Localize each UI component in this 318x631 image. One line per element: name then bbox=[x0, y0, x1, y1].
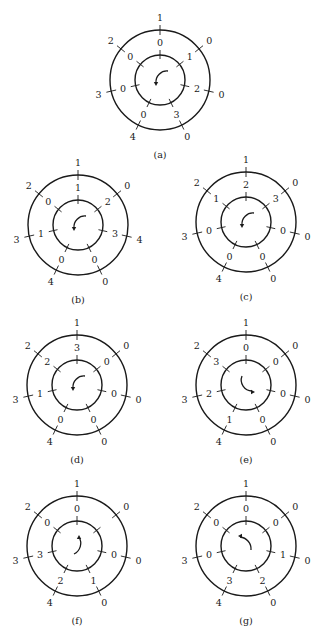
outer-value-label: 2 bbox=[25, 501, 31, 512]
inner-ring bbox=[135, 55, 185, 105]
inner-value-label: 1 bbox=[280, 549, 286, 560]
inner-value-label: 0 bbox=[45, 196, 51, 207]
outer-value-label: 4 bbox=[47, 436, 53, 447]
rotation-arrow-icon bbox=[242, 213, 254, 225]
outer-value-label: 2 bbox=[194, 177, 200, 188]
outer-value-label: 0 bbox=[206, 35, 212, 46]
panel-g: 10000102433020(g) bbox=[182, 478, 311, 627]
inner-ring bbox=[221, 360, 271, 410]
panel-b: 11024300403120(b) bbox=[14, 157, 143, 306]
rotation-arrow-icon bbox=[74, 537, 81, 554]
inner-value-label: 0 bbox=[243, 342, 249, 353]
outer-value-label: 0 bbox=[101, 436, 107, 447]
panel-caption: (d) bbox=[70, 454, 84, 465]
inner-value-label: 0 bbox=[57, 414, 63, 425]
inner-value-label: 2 bbox=[243, 179, 249, 190]
outer-value-label: 0 bbox=[292, 340, 298, 351]
outer-value-label: 4 bbox=[216, 273, 222, 284]
inner-value-label: 1 bbox=[226, 414, 232, 425]
inner-value-label: 3 bbox=[213, 356, 219, 367]
inner-value-label: 0 bbox=[74, 503, 80, 514]
outer-value-label: 2 bbox=[108, 35, 114, 46]
inner-value-label: 3 bbox=[173, 109, 179, 120]
outer-value-label: 0 bbox=[135, 555, 141, 566]
inner-value-label: 2 bbox=[194, 83, 200, 94]
panel-a: 10010203403020(a) bbox=[96, 12, 225, 161]
inner-value-label: 2 bbox=[105, 196, 111, 207]
outer-value-label: 4 bbox=[48, 276, 54, 287]
inner-value-label: 1 bbox=[37, 388, 43, 399]
inner-value-label: 0 bbox=[213, 517, 219, 528]
inner-value-label: 0 bbox=[111, 388, 117, 399]
outer-value-label: 1 bbox=[243, 154, 249, 165]
outer-value-label: 0 bbox=[135, 394, 141, 405]
outer-value-label: 0 bbox=[102, 276, 108, 287]
outer-value-label: 0 bbox=[270, 436, 276, 447]
outer-value-label: 2 bbox=[194, 501, 200, 512]
outer-value-label: 4 bbox=[47, 597, 53, 608]
inner-value-label: 1 bbox=[187, 51, 193, 62]
rotation-arrow-icon bbox=[240, 537, 251, 550]
inner-value-label: 0 bbox=[127, 51, 133, 62]
rotation-arrow-icon bbox=[73, 376, 85, 388]
inner-value-label: 3 bbox=[226, 575, 232, 586]
outer-value-label: 3 bbox=[182, 231, 188, 242]
inner-value-label: 0 bbox=[58, 254, 64, 265]
inner-value-label: 0 bbox=[273, 517, 279, 528]
outer-value-label: 3 bbox=[182, 555, 188, 566]
arrowhead-icon bbox=[154, 82, 158, 86]
inner-value-label: 2 bbox=[57, 575, 63, 586]
outer-value-label: 0 bbox=[304, 555, 310, 566]
outer-value-label: 1 bbox=[74, 478, 80, 489]
panel-caption: (f) bbox=[72, 615, 83, 626]
inner-value-label: 0 bbox=[243, 503, 249, 514]
inner-value-label: 1 bbox=[38, 228, 44, 239]
arrowhead-icon bbox=[240, 224, 244, 228]
panel-caption: (a) bbox=[153, 149, 166, 160]
inner-value-label: 0 bbox=[206, 549, 212, 560]
inner-value-label: 0 bbox=[259, 414, 265, 425]
outer-value-label: 0 bbox=[292, 177, 298, 188]
outer-value-label: 3 bbox=[182, 394, 188, 405]
outer-value-label: 0 bbox=[124, 180, 130, 191]
arrowhead-icon bbox=[71, 387, 75, 391]
arrowhead-icon bbox=[72, 227, 76, 231]
outer-value-label: 1 bbox=[243, 317, 249, 328]
outer-value-label: 3 bbox=[96, 89, 102, 100]
arrowhead-icon bbox=[251, 390, 255, 394]
outer-value-label: 4 bbox=[216, 597, 222, 608]
panel-d: 13000000403122(d) bbox=[13, 317, 142, 466]
outer-value-label: 1 bbox=[157, 12, 163, 23]
inner-value-label: 3 bbox=[112, 228, 118, 239]
rotation-arrow-icon bbox=[241, 376, 252, 391]
inner-value-label: 3 bbox=[273, 193, 279, 204]
inner-ring bbox=[52, 360, 102, 410]
outer-value-label: 1 bbox=[74, 317, 80, 328]
inner-value-label: 0 bbox=[104, 356, 110, 367]
inner-value-label: 0 bbox=[44, 517, 50, 528]
outer-value-label: 3 bbox=[14, 234, 20, 245]
outer-value-label: 2 bbox=[25, 340, 31, 351]
rotation-arrow-icon bbox=[74, 216, 86, 228]
panel-e: 10000000413223(e) bbox=[182, 317, 311, 466]
outer-value-label: 0 bbox=[123, 340, 129, 351]
inner-ring bbox=[53, 200, 103, 250]
outer-value-label: 0 bbox=[184, 131, 190, 142]
inner-value-label: 0 bbox=[91, 254, 97, 265]
outer-value-label: 4 bbox=[136, 234, 142, 245]
inner-value-label: 0 bbox=[280, 225, 286, 236]
inner-value-label: 0 bbox=[259, 251, 265, 262]
outer-value-label: 1 bbox=[75, 157, 81, 168]
inner-value-label: 1 bbox=[75, 182, 81, 193]
inner-value-label: 0 bbox=[226, 251, 232, 262]
inner-value-label: 0 bbox=[280, 388, 286, 399]
inner-value-label: 3 bbox=[37, 549, 43, 560]
inner-value-label: 2 bbox=[259, 575, 265, 586]
panel-caption: (c) bbox=[240, 291, 253, 302]
inner-ring bbox=[52, 521, 102, 571]
outer-value-label: 3 bbox=[13, 555, 19, 566]
ring-diagram-figure: 10010203403020(a)11024300403120(b)120300… bbox=[0, 0, 318, 631]
panel-caption: (e) bbox=[239, 454, 252, 465]
inner-value-label: 2 bbox=[206, 388, 212, 399]
outer-value-label: 0 bbox=[304, 231, 310, 242]
